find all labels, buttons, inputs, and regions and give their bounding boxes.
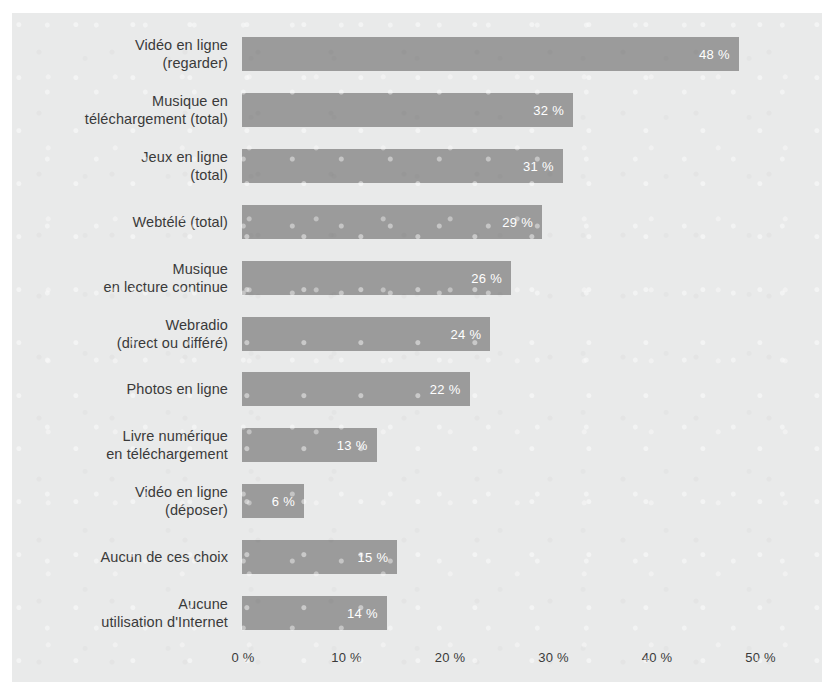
- bar-value-label: 15 %: [357, 550, 388, 565]
- bar-value-label: 32 %: [533, 102, 564, 117]
- category-label: Jeux en ligne (total): [28, 148, 228, 184]
- category-label: Webradio (direct ou différé): [28, 316, 228, 352]
- bar[interactable]: 32 %: [242, 93, 573, 127]
- x-tick-label: 20 %: [435, 650, 465, 665]
- category-label: Livre numérique en téléchargement: [28, 427, 228, 463]
- x-tick-label: 50 %: [745, 650, 775, 665]
- bar[interactable]: 6 %: [242, 484, 304, 518]
- bar-value-label: 24 %: [451, 326, 482, 341]
- category-label: Webtélé (total): [28, 213, 228, 231]
- bar-row: Musique en lecture continue26 %: [12, 261, 822, 295]
- category-label: Musique en lecture continue: [28, 260, 228, 296]
- bar[interactable]: 15 %: [242, 540, 397, 574]
- bar[interactable]: 48 %: [242, 37, 739, 71]
- bar-value-label: 29 %: [502, 214, 533, 229]
- bar-value-label: 31 %: [523, 158, 554, 173]
- bar-row: Webtélé (total)29 %: [12, 205, 822, 239]
- bar-value-label: 22 %: [430, 382, 461, 397]
- bar-row: Photos en ligne22 %: [12, 372, 822, 406]
- bar-row: Aucun de ces choix15 %: [12, 540, 822, 574]
- bar[interactable]: 26 %: [242, 261, 511, 295]
- bar-value-label: 14 %: [347, 606, 378, 621]
- x-axis: 0 %10 %20 %30 %40 %50 %: [242, 650, 802, 672]
- bar-row: Musique en téléchargement (total)32 %: [12, 93, 822, 127]
- category-label: Musique en téléchargement (total): [28, 92, 228, 128]
- bar-row: Livre numérique en téléchargement13 %: [12, 428, 822, 462]
- bar[interactable]: 22 %: [242, 372, 470, 406]
- category-label: Vidéo en ligne (déposer): [28, 483, 228, 519]
- bar-value-label: 26 %: [471, 270, 502, 285]
- bar[interactable]: 14 %: [242, 596, 387, 630]
- bar-row: Vidéo en ligne (regarder)48 %: [12, 37, 822, 71]
- bar[interactable]: 31 %: [242, 149, 563, 183]
- chart-figure: Vidéo en ligne (regarder)48 %Musique en …: [0, 0, 833, 697]
- category-label: Vidéo en ligne (regarder): [28, 36, 228, 72]
- x-tick-label: 10 %: [331, 650, 361, 665]
- category-label: Aucune utilisation d'Internet: [28, 595, 228, 631]
- category-label: Aucun de ces choix: [28, 548, 228, 566]
- bar-row: Aucune utilisation d'Internet14 %: [12, 596, 822, 630]
- x-tick-label: 30 %: [538, 650, 568, 665]
- bar-row: Webradio (direct ou différé)24 %: [12, 317, 822, 351]
- x-tick-label: 0 %: [231, 650, 254, 665]
- x-tick-label: 40 %: [642, 650, 672, 665]
- bar[interactable]: 29 %: [242, 205, 542, 239]
- bar-row: Vidéo en ligne (déposer)6 %: [12, 484, 822, 518]
- bar[interactable]: 13 %: [242, 428, 377, 462]
- category-label: Photos en ligne: [28, 380, 228, 398]
- bar-value-label: 6 %: [272, 494, 295, 509]
- bar-row: Jeux en ligne (total)31 %: [12, 149, 822, 183]
- chart-panel: Vidéo en ligne (regarder)48 %Musique en …: [12, 13, 822, 682]
- bar[interactable]: 24 %: [242, 317, 490, 351]
- bar-value-label: 48 %: [699, 47, 730, 62]
- plot-area: Vidéo en ligne (regarder)48 %Musique en …: [12, 13, 822, 682]
- bar-value-label: 13 %: [337, 438, 368, 453]
